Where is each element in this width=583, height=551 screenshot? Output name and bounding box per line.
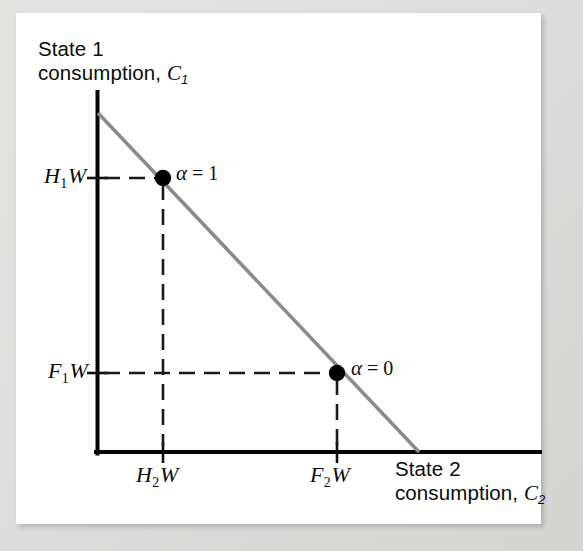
data-point-alpha-1 (155, 170, 171, 186)
annotation-alpha-1-value: = 1 (192, 162, 218, 184)
y-axis-title-line2: consumption, (38, 61, 161, 84)
annotation-alpha-0-symbol: α (351, 356, 362, 380)
annotation-alpha-0: α = 0 (351, 356, 393, 381)
y-axis-title: State 1 consumption, C1 (38, 37, 189, 86)
x-tick-label-h2w-suffix: W (160, 462, 179, 487)
x-tick-label-f2w-variable: F (310, 462, 324, 487)
x-tick-label-h2w-subscript: 2 (152, 475, 160, 490)
y-tick-label-f1w: F1W (48, 358, 88, 384)
x-axis-title-subscript: 2 (538, 492, 546, 507)
y-tick-label-h1w-suffix: W (68, 163, 87, 188)
y-tick-label-h1w-subscript: 1 (60, 176, 68, 191)
x-tick-label-f2w-suffix: W (331, 462, 350, 487)
annotation-alpha-0-value: = 0 (367, 357, 393, 379)
y-tick-label-h1w: H1W (44, 163, 87, 189)
budget-line (98, 113, 419, 452)
x-axis-title: State 2 consumption, C2 (395, 457, 546, 506)
figure-root: State 1 consumption, C1 State 2 consumpt… (0, 0, 583, 551)
x-axis-title-line1: State 2 (395, 457, 461, 480)
y-axis-title-subscript: 1 (181, 72, 189, 87)
y-tick-label-f1w-variable: F (48, 358, 62, 383)
y-tick-label-h1w-variable: H (44, 163, 60, 188)
annotation-alpha-1: α = 1 (176, 161, 218, 186)
y-tick-label-f1w-subscript: 1 (62, 371, 70, 386)
annotation-alpha-1-symbol: α (176, 161, 187, 185)
x-tick-label-f2w: F2W (310, 462, 350, 488)
y-tick-label-f1w-suffix: W (69, 358, 88, 383)
x-tick-label-h2w-variable: H (136, 462, 152, 487)
x-tick-label-h2w: H2W (136, 462, 179, 488)
x-axis-title-variable: C (524, 481, 538, 505)
y-axis-title-variable: C (167, 61, 181, 85)
data-point-alpha-0 (329, 365, 345, 381)
x-axis-title-line2: consumption, (395, 481, 518, 504)
y-axis-title-line1: State 1 (38, 37, 104, 60)
x-tick-label-f2w-subscript: 2 (324, 475, 332, 490)
